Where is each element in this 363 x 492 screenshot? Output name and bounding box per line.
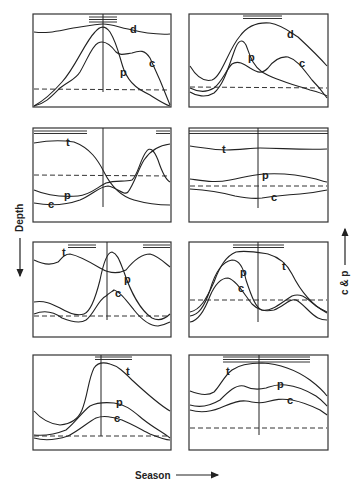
panel-row4-right: t p c (189, 355, 328, 450)
curve-label-t: t (282, 260, 286, 272)
curve-label-t: t (66, 136, 70, 148)
curve-label-c: c (299, 57, 305, 69)
curve-label-c: c (149, 57, 155, 69)
depth-label: Depth (14, 204, 25, 232)
panel-row1-left: d p c (33, 14, 171, 107)
curve-label-d: d (130, 23, 137, 35)
panel-row2-right: t p c (189, 128, 328, 222)
curve-label-p: p (277, 378, 284, 390)
curve-label-p: p (240, 266, 247, 278)
curve-label-t: t (222, 143, 226, 155)
depth-axis: Depth (14, 204, 25, 276)
panel-row1-right: d p c (189, 14, 328, 107)
curve-label-p: p (262, 169, 269, 181)
curve-label-c: c (48, 198, 54, 210)
curve-label-p: p (248, 51, 255, 63)
curve-label-d: d (287, 28, 294, 40)
curve-label-c: c (114, 412, 120, 424)
panel-row3-left: t p c (33, 242, 171, 337)
seasonal-depth-diagram: d p c d p c t p c (0, 0, 363, 492)
c-and-p-axis: c & p (339, 229, 350, 295)
curve-label-c: c (287, 394, 293, 406)
curve-label-c: c (271, 191, 277, 203)
panel-row4-left: t p c (33, 355, 171, 450)
curve-label-c: c (238, 282, 244, 294)
panel-row2-left: t p c (33, 128, 171, 222)
season-axis: Season (135, 470, 218, 481)
curve-label-p: p (124, 273, 131, 285)
curve-label-p: p (116, 396, 123, 408)
curve-label-p: p (120, 66, 127, 78)
curve-label-t: t (62, 246, 66, 258)
season-label: Season (135, 470, 171, 481)
curve-label-p: p (64, 189, 71, 201)
curve-label-c: c (115, 287, 121, 299)
c-and-p-label: c & p (339, 271, 350, 295)
curve-label-t: t (226, 365, 230, 377)
curve-label-t: t (126, 365, 130, 377)
panel-row3-right: t p c (189, 242, 328, 337)
